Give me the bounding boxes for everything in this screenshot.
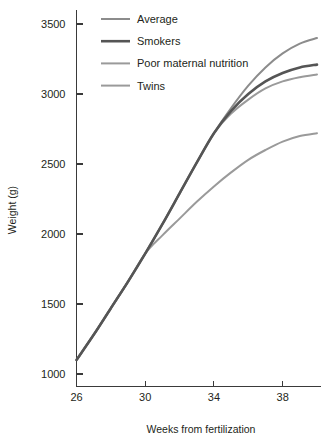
y-tick-label: 2000	[41, 228, 65, 240]
chart-legend: AverageSmokersPoor maternal nutritionTwi…	[101, 13, 248, 92]
legend-label: Average	[137, 13, 178, 25]
series-line	[77, 74, 318, 360]
x-axis-title: Weeks from fertilization	[147, 423, 256, 435]
legend-label: Smokers	[137, 35, 181, 47]
y-tick-label: 1500	[41, 298, 65, 310]
x-tick-label: 30	[139, 391, 151, 403]
y-tick-label: 1000	[41, 368, 65, 380]
x-axis-ticks: 26303438	[70, 381, 288, 403]
x-tick-label: 26	[70, 391, 82, 403]
chart-canvas: 100015002000250030003500 26303438 Averag…	[0, 0, 326, 440]
y-tick-label: 3500	[41, 18, 65, 30]
legend-label: Poor maternal nutrition	[137, 57, 248, 69]
fetal-growth-chart: 100015002000250030003500 26303438 Averag…	[0, 0, 326, 440]
series-line	[77, 133, 318, 360]
x-tick-label: 34	[208, 391, 220, 403]
y-tick-label: 3000	[41, 88, 65, 100]
y-tick-label: 2500	[41, 158, 65, 170]
series-line	[77, 65, 318, 360]
legend-label: Twins	[137, 80, 166, 92]
y-axis-title: Weight (g)	[6, 186, 18, 234]
x-tick-label: 38	[277, 391, 289, 403]
